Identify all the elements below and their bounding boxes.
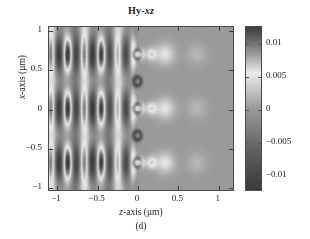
figure-title-main: Hy- [128, 5, 145, 16]
colorbar-tick-label: 0.005 [266, 70, 286, 80]
colorbar-tick-mark [246, 44, 249, 45]
colorbar-tick-mark [258, 110, 261, 111]
x-tick-mark [98, 186, 99, 190]
y-tick-mark [229, 110, 233, 111]
x-axis-title: z-axis (μm) [48, 207, 234, 217]
y-axis-title: x-axis (μm) [17, 27, 27, 127]
y-tick-mark [49, 110, 53, 111]
colorbar-tick-label: −0.01 [266, 169, 287, 179]
y-tick-mark [229, 149, 233, 150]
y-tick-mark [49, 188, 53, 189]
y-axis-title-main: -axis (μm) [17, 55, 27, 95]
y-tick-label: −0.5 [0, 142, 42, 152]
colorbar-tick-mark [246, 143, 249, 144]
x-tick-mark [178, 186, 179, 190]
colorbar-tick-label: 0 [266, 103, 271, 113]
x-tick-mark [57, 186, 58, 190]
colorbar-tick-mark [246, 176, 249, 177]
x-tick-label: 1 [198, 193, 238, 203]
y-tick-mark [49, 70, 53, 71]
colorbar-tick-mark [258, 77, 261, 78]
x-tick-mark [219, 186, 220, 190]
panel-caption: (d) [48, 221, 234, 231]
x-tick-label: 0 [117, 193, 157, 203]
colorbar-tick-mark [258, 44, 261, 45]
colorbar-tick-label: 0.01 [266, 37, 282, 47]
y-tick-mark [229, 31, 233, 32]
colorbar-tick-mark [258, 143, 261, 144]
y-tick-mark [229, 70, 233, 71]
x-axis-title-main: -axis (μm) [123, 207, 163, 217]
figure-title-italic: xz [145, 5, 154, 16]
figure-title: Hy-xz [48, 5, 234, 16]
y-tick-mark [229, 188, 233, 189]
colorbar-tick-label: −0.005 [266, 136, 291, 146]
x-tick-label: −1 [36, 193, 76, 203]
x-tick-mark [138, 186, 139, 190]
x-tick-mark [138, 27, 139, 31]
x-tick-label: 0.5 [157, 193, 197, 203]
x-tick-mark [178, 27, 179, 31]
x-tick-mark [57, 27, 58, 31]
x-tick-mark [98, 27, 99, 31]
x-tick-mark [219, 27, 220, 31]
x-tick-label: −0.5 [77, 193, 117, 203]
colorbar-tick-mark [246, 77, 249, 78]
colorbar-tick-mark [258, 176, 261, 177]
y-tick-label: −1 [0, 181, 42, 191]
field-heatmap-canvas [49, 27, 233, 190]
colorbar [245, 26, 262, 191]
y-axis-title-italic: x [17, 95, 27, 99]
figure-panel-d: Hy-xz −1−0.500.5110.50−0.5−1 z-axis (μm)… [0, 0, 310, 239]
heatmap-plot-area [48, 26, 234, 191]
colorbar-gradient [246, 27, 261, 190]
y-tick-mark [49, 31, 53, 32]
colorbar-tick-mark [246, 110, 249, 111]
y-tick-mark [49, 149, 53, 150]
